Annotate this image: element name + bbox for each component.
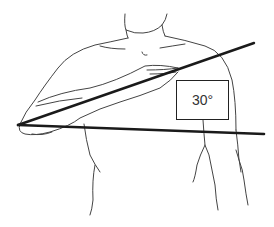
horizontal-reference-line	[18, 125, 264, 134]
angle-label-box: 30°	[176, 80, 229, 120]
torso-angle-diagram: 30°	[0, 0, 274, 227]
angle-label: 30°	[192, 92, 213, 108]
left-torso-outline	[84, 124, 100, 215]
right-arm-outline	[236, 130, 248, 205]
torso-sketch	[0, 0, 274, 227]
upper-arm-outline	[38, 65, 178, 102]
right-torso-outline	[193, 120, 218, 210]
neck-outline	[125, 14, 167, 33]
